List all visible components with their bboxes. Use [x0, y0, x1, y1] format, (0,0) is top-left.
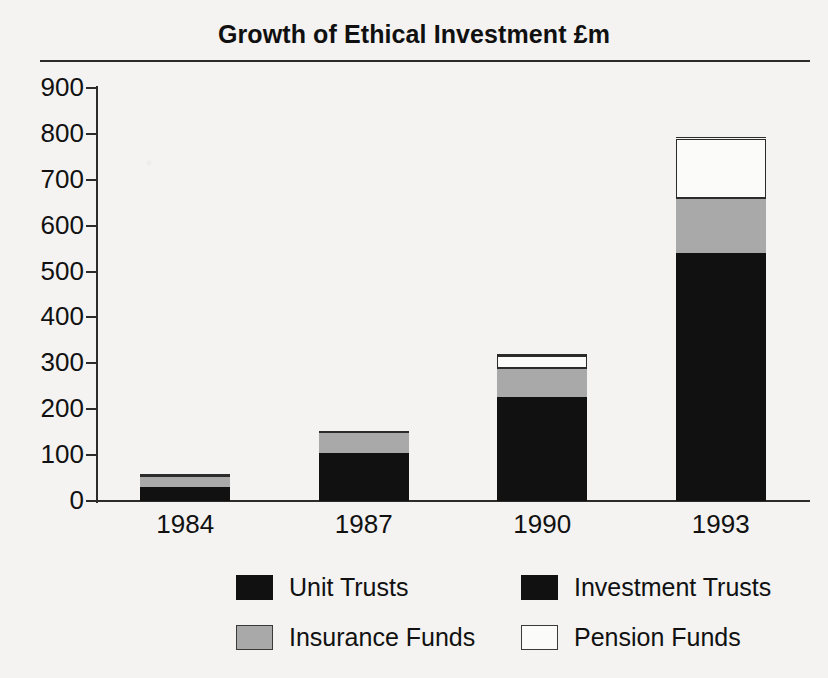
y-axis-tick [86, 133, 96, 135]
y-axis-tick [86, 87, 96, 89]
bar-group [676, 88, 766, 501]
bar-segment [319, 476, 409, 501]
bar-segment [319, 453, 409, 476]
bar-segment [497, 448, 587, 501]
plot-area [96, 88, 810, 501]
chart-figure: Growth of Ethical Investment £m 01002003… [0, 0, 828, 678]
bar-segment [676, 198, 766, 253]
y-axis-tick [86, 362, 96, 364]
bar-segment [140, 487, 230, 494]
y-axis-tick-label: 900 [2, 74, 84, 100]
legend-label: Unit Trusts [289, 573, 408, 601]
legend-label: Pension Funds [574, 623, 741, 651]
y-axis-tick-label: 200 [2, 395, 84, 421]
y-axis-tick-label: 100 [2, 441, 84, 467]
y-axis-tick [86, 225, 96, 227]
chart-title: Growth of Ethical Investment £m [0, 20, 828, 49]
bar-segment [676, 297, 766, 501]
x-axis-tick-label: 1984 [115, 510, 255, 538]
legend-swatch-icon [236, 625, 273, 650]
legend-label: Investment Trusts [574, 573, 771, 601]
bar-segment [497, 368, 587, 396]
bar-top-outline [140, 474, 230, 476]
legend-label: Insurance Funds [289, 623, 475, 651]
bar-segment [676, 253, 766, 297]
title-divider [40, 60, 810, 62]
bar-segment [140, 494, 230, 501]
y-axis-labels: 0100200300400500600700800900 [0, 0, 84, 678]
x-axis-tick-label: 1990 [472, 510, 612, 538]
bar-group [319, 88, 409, 501]
bar-top-outline [319, 431, 409, 433]
bar-segment [319, 432, 409, 453]
legend-swatch-icon [521, 625, 558, 650]
y-axis-tick [86, 500, 96, 502]
y-axis-tick [86, 408, 96, 410]
bar-segment [497, 397, 587, 448]
y-axis-tick-label: 500 [2, 258, 84, 284]
y-axis-tick [86, 271, 96, 273]
legend-item[interactable]: Investment Trusts [521, 572, 771, 602]
legend-swatch-icon [521, 575, 558, 600]
y-axis-tick-label: 600 [2, 212, 84, 238]
y-axis-tick [86, 179, 96, 181]
bar-segment [676, 139, 766, 199]
y-axis-tick-label: 300 [2, 349, 84, 375]
bar-segment [497, 356, 587, 369]
bar-top-outline [676, 137, 766, 139]
y-axis-tick-label: 0 [2, 487, 84, 513]
legend-item[interactable]: Insurance Funds [236, 622, 475, 652]
y-axis-tick-label: 700 [2, 166, 84, 192]
bar-group [497, 88, 587, 501]
bar-group [140, 88, 230, 501]
y-axis-tick-label: 400 [2, 303, 84, 329]
y-axis-tick [86, 316, 96, 318]
chart-legend: Unit TrustsInvestment TrustsInsurance Fu… [236, 572, 796, 660]
legend-swatch-icon [236, 575, 273, 600]
bar-segment [140, 476, 230, 487]
legend-item[interactable]: Unit Trusts [236, 572, 408, 602]
legend-item[interactable]: Pension Funds [521, 622, 741, 652]
x-axis-tick-label: 1993 [651, 510, 791, 538]
y-axis-tick-label: 800 [2, 120, 84, 146]
bar-top-outline [497, 354, 587, 356]
y-axis-tick [86, 454, 96, 456]
x-axis-tick-label: 1987 [294, 510, 434, 538]
